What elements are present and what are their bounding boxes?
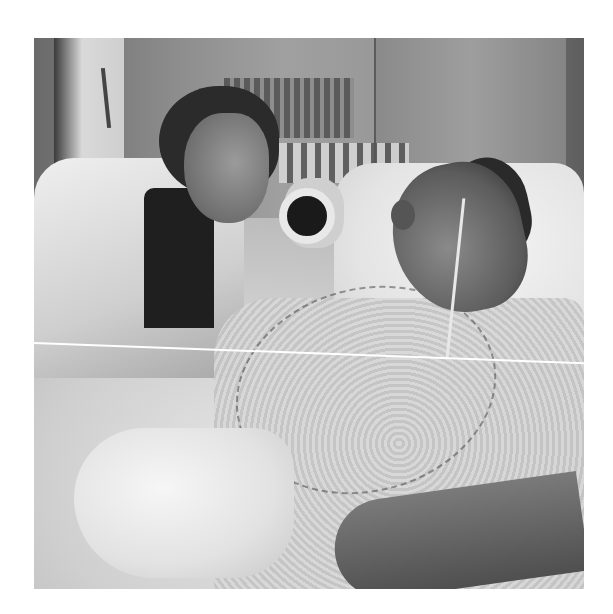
woman-face (184, 113, 269, 223)
man-nose (391, 200, 415, 230)
bent-leg (74, 428, 294, 578)
microphone (279, 188, 335, 244)
photo (34, 38, 584, 589)
